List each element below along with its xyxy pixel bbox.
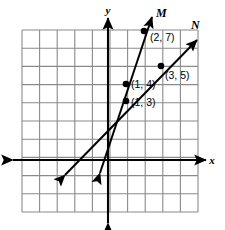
point-label-1-4: (1, 4) bbox=[131, 78, 156, 90]
coordinate-plane-figure: x y M N (2, 7) (1, 4) (1, 3) (3, 5) bbox=[0, 0, 225, 230]
y-axis-label: y bbox=[104, 4, 111, 16]
graph-svg: x y M N (2, 7) (1, 4) (1, 3) (3, 5) bbox=[0, 0, 225, 230]
figure-background bbox=[0, 0, 225, 230]
x-axis-label: x bbox=[208, 154, 215, 166]
point-label-2-7: (2, 7) bbox=[150, 31, 175, 43]
point-marker-3-5 bbox=[158, 63, 165, 70]
point-label-3-5: (3, 5) bbox=[165, 69, 190, 81]
point-label-1-3: (1, 3) bbox=[131, 96, 156, 108]
line-n-label: N bbox=[190, 18, 201, 32]
point-marker-2-7 bbox=[141, 28, 148, 35]
line-m-label: M bbox=[155, 6, 167, 20]
point-marker-1-3 bbox=[123, 98, 130, 105]
point-marker-1-4 bbox=[123, 81, 130, 88]
